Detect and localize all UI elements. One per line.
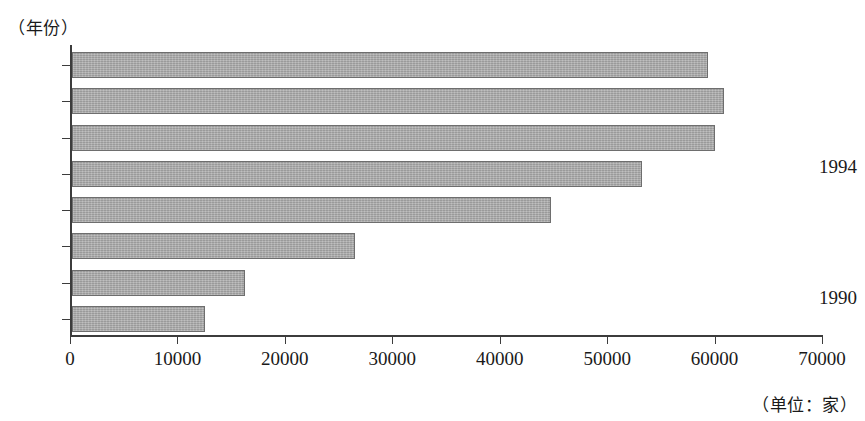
bar-fill (72, 88, 724, 114)
bar-fill (72, 161, 642, 187)
y-axis-caption: （年份） (8, 14, 78, 39)
bar-1997 (72, 52, 708, 78)
y-tick-1990 (62, 319, 70, 320)
x-tick-10000 (177, 335, 178, 344)
unit-caption: （单位：家） (752, 391, 857, 416)
bar-1991 (72, 270, 245, 296)
bar-fill (72, 233, 355, 259)
x-tick-label-70000: 70000 (798, 348, 846, 370)
y-tick-1991 (62, 283, 70, 284)
x-tick-label-40000: 40000 (476, 348, 524, 370)
y-tick-1992 (62, 246, 70, 247)
bar-1995 (72, 125, 715, 151)
x-tick-label-10000: 10000 (154, 348, 202, 370)
bar-1993 (72, 197, 551, 223)
bar-1990 (72, 306, 205, 332)
bar-1994 (72, 161, 642, 187)
x-tick-label-30000: 30000 (369, 348, 417, 370)
x-tick-label-50000: 50000 (583, 348, 631, 370)
x-tick-70000 (822, 335, 823, 344)
plot-area: 010000200003000040000500006000070000 (70, 45, 822, 335)
bar-fill (72, 52, 708, 78)
bar-fill (72, 125, 715, 151)
y-tick-1993 (62, 210, 70, 211)
bar-1992 (72, 233, 355, 259)
x-tick-30000 (392, 335, 393, 344)
x-tick-60000 (715, 335, 716, 344)
y-axis-label-1990: 1990 (819, 287, 857, 309)
x-tick-label-0: 0 (65, 348, 75, 370)
x-tick-40000 (500, 335, 501, 344)
y-axis-label-1994: 1994 (819, 156, 857, 178)
x-tick-label-20000: 20000 (261, 348, 309, 370)
x-tick-20000 (285, 335, 286, 344)
y-tick-1994 (62, 174, 70, 175)
y-tick-1995 (62, 138, 70, 139)
y-tick-1996 (62, 101, 70, 102)
bar-chart: （年份） （单位：家） 0100002000030000400005000060… (0, 0, 865, 421)
bar-1996 (72, 88, 724, 114)
bar-fill (72, 306, 205, 332)
bar-fill (72, 197, 551, 223)
x-tick-0 (70, 335, 71, 344)
y-tick-1997 (62, 65, 70, 66)
x-tick-50000 (607, 335, 608, 344)
x-axis-line (70, 335, 822, 337)
x-tick-label-60000: 60000 (691, 348, 739, 370)
bar-fill (72, 270, 245, 296)
